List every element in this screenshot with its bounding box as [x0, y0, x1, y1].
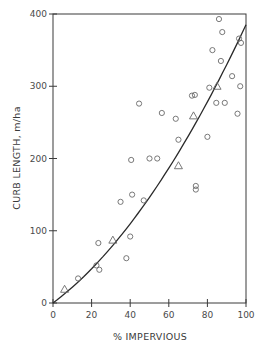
circle-marker	[207, 85, 212, 90]
circle-marker	[159, 110, 164, 115]
circle-marker	[136, 101, 141, 106]
circle-marker	[220, 29, 225, 34]
x-axis-label: % IMPERVIOUS	[113, 331, 187, 342]
y-tick-label: 300	[30, 81, 47, 91]
fitted-curve	[53, 25, 246, 303]
circle-marker	[218, 58, 223, 63]
circle-marker	[75, 276, 80, 281]
plot-frame	[53, 14, 246, 303]
circle-marker	[129, 157, 134, 162]
x-tick-label: 100	[237, 310, 254, 320]
circle-marker	[222, 100, 227, 105]
circle-marker	[238, 84, 243, 89]
y-tick-label: 400	[30, 9, 47, 19]
x-tick-label: 80	[202, 310, 214, 320]
circle-marker	[130, 192, 135, 197]
circle-marker	[235, 111, 240, 116]
circle-marker	[97, 267, 102, 272]
circle-marker	[96, 240, 101, 245]
circle-marker	[176, 137, 181, 142]
x-tick-label: 20	[86, 310, 98, 320]
scatter-chart: 0100200300400 020406080100 % IMPERVIOUS …	[0, 0, 267, 354]
circle-marker	[214, 100, 219, 105]
circle-marker	[238, 40, 243, 45]
triangle-marker	[190, 112, 198, 119]
circle-marker	[141, 198, 146, 203]
y-tick-label: 100	[30, 226, 47, 236]
data-markers	[61, 16, 244, 292]
circle-marker	[128, 234, 133, 239]
y-tick-label: 200	[30, 154, 47, 164]
x-tick-label: 0	[50, 310, 56, 320]
circle-marker	[147, 156, 152, 161]
circle-marker	[216, 16, 221, 21]
circle-marker	[193, 187, 198, 192]
circle-marker	[173, 116, 178, 121]
circle-marker	[210, 48, 215, 53]
circle-marker	[155, 156, 160, 161]
x-tick-label: 60	[163, 310, 175, 320]
circle-marker	[230, 74, 235, 79]
y-tick-label: 0	[41, 298, 47, 308]
x-axis-ticks: 020406080100	[50, 299, 255, 320]
circle-marker	[124, 256, 129, 261]
circle-marker	[205, 134, 210, 139]
triangle-marker	[174, 162, 182, 169]
circle-marker	[118, 199, 123, 204]
x-tick-label: 40	[124, 310, 136, 320]
y-axis-label: CURB LENGTH, m/ha	[11, 106, 22, 210]
